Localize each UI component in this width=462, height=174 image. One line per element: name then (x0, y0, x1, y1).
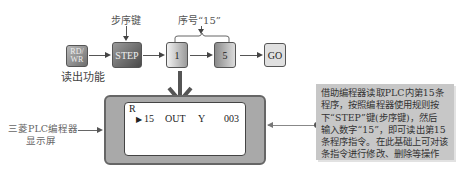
arrow-step-to-1-head (159, 52, 165, 58)
arrow-rdwr-to-step-head (105, 52, 111, 58)
note-callout-arrow (267, 122, 273, 128)
note-line: 条程序指令。在此基础上可对该 (321, 136, 450, 148)
screen-step-number: 15 (144, 113, 154, 124)
step-key[interactable]: STEP (112, 42, 142, 68)
arrow-rdwr-to-step (89, 55, 106, 56)
arrow-1-to-5-head (207, 52, 213, 58)
step-key-label: 步序键 (111, 12, 141, 27)
arrow-step-to-1 (143, 55, 160, 56)
arrow-5-to-go (240, 55, 257, 56)
explanation-note: 借助编程器读取PLC内第15条 程序，按照编程器使用规则按 下“STEP”键(步… (316, 84, 454, 160)
screen-instruction: OUT (165, 113, 186, 124)
rd-wr-key-line2: WR (71, 56, 84, 64)
display-callout-line (78, 130, 98, 131)
screen-mode: R (129, 103, 136, 114)
note-line: 输入数字“15”，即可读出第15 (321, 124, 450, 136)
screen-address: 003 (224, 113, 239, 124)
display-callout-arrow (97, 127, 103, 133)
programmer-display-screen (124, 102, 246, 156)
sequence-number-label: 序号“15” (178, 12, 221, 27)
arrow-1-to-5 (190, 55, 207, 56)
note-callout-line (268, 125, 317, 126)
screen-cursor-icon: ▶ (136, 115, 142, 124)
digit-1-key[interactable]: 1 (166, 42, 188, 68)
read-function-label: 读出功能 (61, 68, 105, 84)
go-key[interactable]: GO (264, 43, 286, 67)
note-line: 下“STEP”键(步序键)，然后 (321, 112, 450, 124)
note-line: 程序，按照编程器使用规则按 (321, 99, 450, 111)
note-line: 条指令进行修改、删除等操作 (321, 148, 450, 160)
display-screen-label-line2: 显示屏 (26, 133, 56, 147)
step-key-pointer-arrow (123, 36, 129, 41)
screen-device: Y (198, 113, 205, 124)
arrow-5-to-go-head (257, 52, 263, 58)
rd-wr-key[interactable]: RD/ WR (66, 45, 88, 67)
note-line: 借助编程器读取PLC内第15条 (321, 87, 450, 99)
digit-5-key[interactable]: 5 (214, 42, 236, 68)
